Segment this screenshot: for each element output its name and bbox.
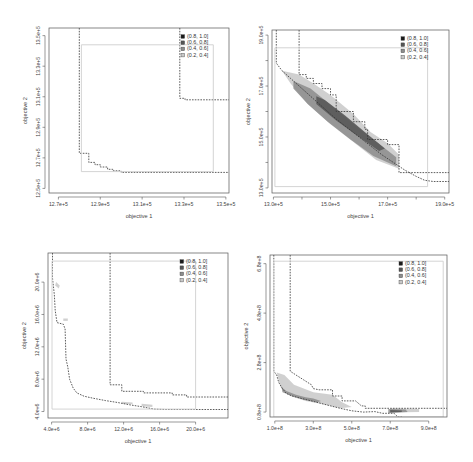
legend-label: (0.8, 1.0] xyxy=(407,35,429,41)
x-tick-label: 17.0e+5 xyxy=(378,201,397,207)
legend-swatch xyxy=(401,49,405,53)
y-tick-label: 0.8e+8 xyxy=(256,404,262,420)
y-tick-label: 13.1e+5 xyxy=(35,87,41,106)
y-axis-title: objective 2 xyxy=(245,98,251,125)
y-tick-label: 13.0e+5 xyxy=(258,178,264,197)
legend-label: (0.6, 0.8] xyxy=(186,264,208,270)
legend-label: (0.6, 0.8] xyxy=(405,266,427,272)
y-tick-label: 8.0e+6 xyxy=(34,371,40,387)
y-tick-label: 13.5e+5 xyxy=(35,26,41,45)
x-axis: 4.0e+68.0e+612.0e+616.0e+620.0e+6objecti… xyxy=(44,422,206,444)
x-tick-label: 12.9e+5 xyxy=(91,201,110,207)
probability-region xyxy=(316,96,385,151)
y-tick-label: 19.0e+5 xyxy=(258,26,264,45)
y-tick-label: 12.9e+5 xyxy=(35,118,41,137)
probability-region xyxy=(55,282,60,289)
legend-swatch xyxy=(180,266,184,270)
x-tick-label: 8.0e+6 xyxy=(80,426,96,432)
probability-region xyxy=(63,319,68,321)
y-axis: 12.5e+512.7e+512.9e+513.1e+513.3e+513.5e… xyxy=(22,26,45,198)
x-tick-label: 15.0e+5 xyxy=(321,201,340,207)
legend-swatch xyxy=(399,268,403,272)
y-axis-title: objective 2 xyxy=(22,97,28,124)
x-axis: 12.7e+512.9e+513.1e+513.3e+513.5e+5objec… xyxy=(49,197,235,219)
x-axis-title: objective 1 xyxy=(347,213,374,219)
y-tick-label: 2.8e+8 xyxy=(256,354,262,370)
legend-label: (0.4, 0.6] xyxy=(187,45,209,51)
chart-bottom-left: 4.0e+68.0e+612.0e+616.0e+620.0e+6objecti… xyxy=(21,253,228,444)
legend-label: (0.2, 0.4] xyxy=(187,52,209,58)
x-axis-title: objective 1 xyxy=(126,213,153,219)
reference-box-line xyxy=(81,45,213,172)
y-tick-label: 20.0e+6 xyxy=(34,273,40,292)
figure-canvas: 12.7e+512.9e+513.1e+513.3e+513.5e+5objec… xyxy=(0,0,473,462)
y-tick-label: 15.0e+5 xyxy=(258,127,264,146)
y-tick-label: 12.5e+5 xyxy=(35,179,41,198)
legend-swatch xyxy=(399,280,403,284)
reference-box-line xyxy=(52,261,196,409)
legend-swatch xyxy=(180,272,184,276)
x-tick-label: 5.0e+8 xyxy=(344,425,360,431)
legend-swatch xyxy=(401,43,405,47)
legend-swatch xyxy=(180,260,184,264)
legend-label: (0.8, 1.0] xyxy=(405,260,427,266)
y-tick-label: 13.3e+5 xyxy=(35,57,41,76)
legend: (0.8, 1.0](0.6, 0.8](0.4, 0.6](0.2, 0.4] xyxy=(401,35,429,60)
legend-label: (0.8, 1.0] xyxy=(187,33,209,39)
y-tick-label: 12.7e+5 xyxy=(35,148,41,167)
x-tick-label: 13.1e+5 xyxy=(133,201,152,207)
probability-region xyxy=(277,373,352,409)
x-axis-title: objective 1 xyxy=(345,437,372,443)
y-tick-label: 16.0e+6 xyxy=(34,305,40,324)
panels-group: 12.7e+512.9e+513.1e+513.3e+513.5e+5objec… xyxy=(21,26,454,444)
legend-swatch xyxy=(399,274,403,278)
y-axis: 0.8e+82.8e+84.8e+86.8e+8objective 2 xyxy=(243,256,266,421)
y-axis: 13.0e+515.0e+517.0e+519.0e+5objective 2 xyxy=(245,26,268,198)
y-axis-title: objective 2 xyxy=(243,323,249,350)
y-axis: 4.0e+68.0e+612.0e+616.0e+620.0e+6objecti… xyxy=(21,273,44,420)
legend: (0.8, 1.0](0.6, 0.8](0.4, 0.6](0.2, 0.4] xyxy=(399,260,427,285)
legend-label: (0.2, 0.4] xyxy=(407,54,429,60)
x-tick-label: 12.7e+5 xyxy=(49,201,68,207)
legend-label: (0.2, 0.4] xyxy=(186,277,208,283)
legend: (0.8, 1.0](0.6, 0.8](0.4, 0.6](0.2, 0.4] xyxy=(180,258,208,283)
x-axis: 1.0e+83.0e+85.0e+87.0e+89.0e+8objective … xyxy=(267,421,437,443)
x-tick-label: 9.0e+8 xyxy=(421,425,437,431)
legend-label: (0.6, 0.8] xyxy=(187,39,209,45)
y-axis-title: objective 2 xyxy=(21,322,27,349)
legend-swatch xyxy=(181,53,185,57)
x-axis-title: objective 1 xyxy=(125,438,152,444)
x-tick-label: 1.0e+8 xyxy=(267,425,283,431)
y-tick-label: 12.0e+6 xyxy=(34,337,40,356)
legend-label: (0.4, 0.6] xyxy=(186,270,208,276)
legend-swatch xyxy=(401,37,405,41)
legend-label: (0.8, 1.0] xyxy=(186,258,208,264)
x-tick-label: 7.0e+8 xyxy=(382,425,398,431)
legend-swatch xyxy=(181,35,185,39)
legend-label: (0.4, 0.6] xyxy=(405,272,427,278)
legend-swatch xyxy=(180,278,184,282)
x-tick-label: 13.5e+5 xyxy=(216,201,235,207)
probability-region xyxy=(122,402,133,405)
legend-swatch xyxy=(181,41,185,45)
x-axis: 13.0e+515.0e+517.0e+519.0e+5objective 1 xyxy=(264,197,454,219)
x-tick-label: 20.0e+6 xyxy=(186,426,205,432)
legend-swatch xyxy=(181,47,185,51)
legend-label: (0.2, 0.4] xyxy=(405,279,427,285)
y-tick-label: 4.0e+6 xyxy=(34,403,40,419)
chart-bottom-right: 1.0e+83.0e+85.0e+87.0e+89.0e+8objective … xyxy=(243,255,447,443)
legend-swatch xyxy=(401,55,405,59)
y-tick-label: 6.8e+8 xyxy=(256,256,262,272)
x-tick-label: 3.0e+8 xyxy=(305,425,321,431)
x-tick-label: 19.0e+5 xyxy=(435,201,454,207)
legend: (0.8, 1.0](0.6, 0.8](0.4, 0.6](0.2, 0.4] xyxy=(181,33,209,58)
chart-top-right: 13.0e+515.0e+517.0e+519.0e+5objective 11… xyxy=(245,26,454,219)
x-tick-label: 13.0e+5 xyxy=(264,201,283,207)
y-tick-label: 4.8e+8 xyxy=(256,305,262,321)
legend-label: (0.4, 0.6] xyxy=(407,47,429,53)
x-tick-label: 13.3e+5 xyxy=(175,201,194,207)
legend-swatch xyxy=(399,262,403,266)
attainment-worst-line xyxy=(110,253,228,397)
x-tick-label: 16.0e+6 xyxy=(150,426,169,432)
x-tick-label: 4.0e+6 xyxy=(44,426,60,432)
